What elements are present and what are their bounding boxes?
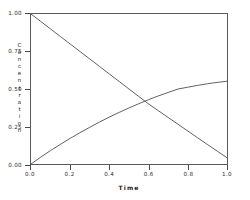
x-tick-mark — [70, 165, 71, 170]
x-tick-label: 0.8 — [175, 171, 201, 177]
x-tick-label: 0.6 — [136, 171, 162, 177]
growth-curve-line — [31, 81, 227, 164]
y-axis-title: Concentration — [15, 42, 24, 134]
y-axis-title-letter: n — [15, 77, 24, 84]
x-tick-label: 0.4 — [96, 171, 122, 177]
x-tick-label: 0.2 — [57, 171, 83, 177]
y-axis-title-letter: t — [15, 106, 24, 113]
x-tick-mark — [227, 165, 228, 170]
y-axis-title-letter: c — [15, 63, 24, 70]
x-tick-mark — [188, 165, 189, 170]
x-tick-label: 1.0 — [214, 171, 240, 177]
y-tick-label: 1.00 — [0, 10, 22, 16]
y-axis-title-letter: a — [15, 99, 24, 106]
y-axis-title-letter: o — [15, 49, 24, 56]
y-axis-title-letter: o — [15, 120, 24, 127]
y-axis-title-letter: n — [15, 127, 24, 134]
x-tick-label: 0.0 — [17, 171, 43, 177]
y-axis-title-letter: C — [15, 42, 24, 49]
y-axis-title-letter: e — [15, 70, 24, 77]
y-axis-title-letter: i — [15, 113, 24, 120]
chart-figure: 1.00 0.75 0.50 0.25 0.00 0.0 0.2 0.4 0.6… — [0, 0, 250, 200]
y-axis-title-letter: r — [15, 92, 24, 99]
y-axis-title-letter: n — [15, 56, 24, 63]
curves-svg — [31, 14, 227, 164]
x-axis-title: Time — [30, 184, 228, 191]
x-tick-mark — [149, 165, 150, 170]
plot-area — [30, 13, 228, 165]
x-tick-mark — [30, 165, 31, 170]
x-tick-mark — [109, 165, 110, 170]
y-axis-title-letter: t — [15, 85, 24, 92]
y-tick-label: 0.00 — [0, 162, 22, 168]
